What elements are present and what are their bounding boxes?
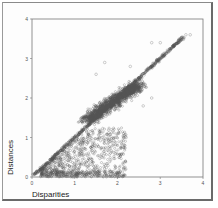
y-tick-label: 3 [25, 56, 28, 62]
y-tick-label: 2 [25, 95, 28, 101]
x-tick-label: 0 [31, 180, 34, 186]
scatter-plot: 0123401234 [0, 0, 218, 208]
x-tick-label: 3 [159, 180, 162, 186]
data-points [31, 34, 191, 179]
y-tick-label: 1 [25, 135, 28, 141]
x-tick-label: 1 [73, 180, 76, 186]
x-tick-label: 4 [202, 180, 205, 186]
y-axis-title: Distances [6, 140, 15, 175]
y-tick-label: 0 [25, 174, 28, 180]
x-tick-label: 2 [116, 180, 119, 186]
y-tick-label: 4 [25, 16, 28, 22]
x-axis-title: Disparities [32, 190, 69, 199]
